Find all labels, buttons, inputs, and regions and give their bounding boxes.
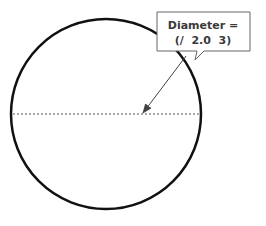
pointer-arrow	[143, 56, 186, 113]
callout-line-1: Diameter =	[168, 19, 238, 32]
callout-line-2: (/ 2.0 3)	[175, 34, 232, 47]
callout-box: Diameter = (/ 2.0 3)	[157, 12, 250, 60]
diagram-canvas: Diameter = (/ 2.0 3)	[0, 0, 266, 226]
